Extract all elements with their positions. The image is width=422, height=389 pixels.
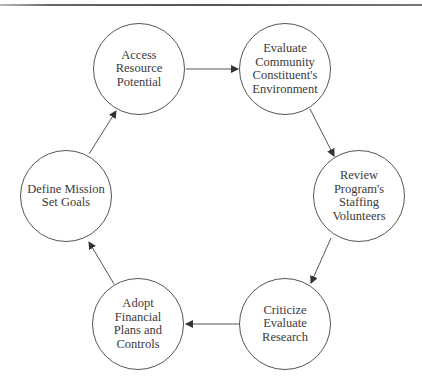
node-define-mission: Define Mission Set Goals <box>20 150 112 242</box>
node-label: Define Mission Set Goals <box>27 183 104 210</box>
edge-evaluate-to-review <box>310 109 334 156</box>
node-label: Adopt Financial Plans and Controls <box>114 297 162 351</box>
node-access-resource-potential: Access Resource Potential <box>93 23 185 115</box>
edge-review-to-criticize <box>311 238 331 283</box>
node-label: Review Program's Staffing Volunteers <box>332 169 385 223</box>
node-evaluate-community: Evaluate Community Constituent's Environ… <box>239 23 331 115</box>
node-label: Criticize Evaluate Research <box>262 304 308 345</box>
node-label: Access Resource Potential <box>116 49 163 90</box>
node-label: Evaluate Community Constituent's Environ… <box>252 42 317 96</box>
edge-define-to-access <box>89 111 116 154</box>
node-review-programs: Review Program's Staffing Volunteers <box>313 150 405 242</box>
node-criticize-evaluate-research: Criticize Evaluate Research <box>239 278 331 370</box>
edge-adopt-to-define <box>89 242 114 284</box>
node-adopt-financial-plans: Adopt Financial Plans and Controls <box>92 278 184 370</box>
